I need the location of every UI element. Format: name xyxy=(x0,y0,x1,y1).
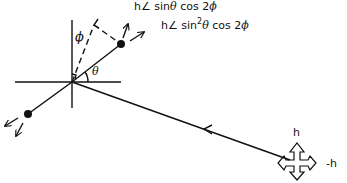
phi-label: ϕ xyxy=(75,31,84,43)
wave-right-label: -h xyxy=(326,158,337,170)
wave-up-label: h xyxy=(293,127,300,139)
theta-arc xyxy=(85,72,88,82)
eq1-suffix: cos 2 xyxy=(177,0,210,13)
rod-lower xyxy=(28,82,72,114)
eq1-prefix: h∠ sin xyxy=(134,0,170,13)
eq1-phi: ϕ xyxy=(209,0,217,13)
eq1-theta: θ xyxy=(170,0,177,13)
mass-lower xyxy=(24,110,32,118)
propagation-arrowhead xyxy=(204,125,212,134)
wave-propagation-line xyxy=(72,82,290,160)
equation-1: h∠ sinθ cos 2ϕ xyxy=(134,1,217,13)
equation-2: h∠ sin2θ cos 2ϕ xyxy=(161,20,249,32)
mass-upper xyxy=(117,40,125,48)
eq2-phi: ϕ xyxy=(241,19,249,32)
theta-label: θ xyxy=(92,66,99,78)
eq2-prefix: h∠ sin xyxy=(161,19,197,32)
eq2-suffix: cos 2 xyxy=(209,19,242,32)
right-angle-mark xyxy=(94,19,99,28)
eq2-theta: θ xyxy=(202,19,209,32)
polarization-cross-icon xyxy=(278,143,316,180)
